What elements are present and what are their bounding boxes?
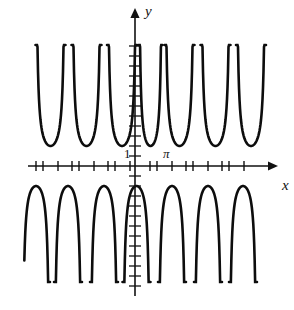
- curve-branch-upper-0: [36, 45, 66, 146]
- axes-group: [28, 8, 278, 296]
- curve-branch-upper-4: [165, 45, 195, 146]
- curve-group: [24, 45, 266, 282]
- curve-branch-upper-5: [201, 45, 231, 146]
- curve-branch-lower-5: [194, 186, 222, 282]
- x-axis-label: x: [281, 177, 289, 193]
- y-axis-label: y: [143, 3, 152, 19]
- curve-branch-lower-2: [90, 186, 118, 282]
- curve-branch-lower-3: [123, 186, 151, 282]
- y-axis-arrowhead: [130, 8, 139, 18]
- curve-branch-lower-1: [54, 186, 82, 282]
- curve-branch-lower-4: [158, 186, 186, 282]
- tick-label-one: 1: [124, 146, 131, 161]
- curve-branch-lower-6: [229, 186, 257, 282]
- plot-canvas: x y 1 π: [0, 0, 294, 310]
- curve-branch-upper-1: [72, 45, 102, 146]
- curve-branch-lower-0: [24, 186, 50, 282]
- tick-label-pi: π: [163, 146, 170, 161]
- curve-branch-upper-3: [139, 45, 163, 146]
- curve-branch-upper-6: [236, 45, 266, 146]
- x-axis-arrowhead: [268, 161, 278, 170]
